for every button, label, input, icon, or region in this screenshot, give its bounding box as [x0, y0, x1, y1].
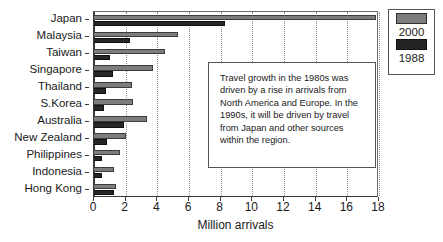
- bar-2000-australia: [94, 116, 147, 121]
- bar-1988-japan: [94, 21, 225, 26]
- bar-1988-australia: [94, 122, 124, 127]
- legend-swatch-1988-icon: [396, 39, 427, 50]
- bar-1988-malaysia: [94, 38, 130, 43]
- bar-1988-new-zealand: [94, 139, 107, 144]
- annotation-box: Travel growth in the 1980s was driven by…: [208, 62, 376, 168]
- bar-row: [94, 181, 377, 198]
- bar-1988-s-korea: [94, 105, 104, 110]
- x-axis-tick-label-12: 12: [276, 201, 289, 214]
- bar-1988-indonesia: [94, 173, 102, 178]
- y-axis-tick: [85, 87, 89, 88]
- x-axis-tick-label-18: 18: [371, 201, 384, 214]
- legend-label-2000: 2000: [389, 25, 434, 39]
- legend-label-1988: 1988: [389, 51, 434, 65]
- x-axis-tick-label-4: 4: [153, 201, 160, 214]
- y-axis-tick: [85, 172, 89, 173]
- x-axis-tick-labels: 024681012141618: [0, 201, 443, 217]
- x-axis-tick-label-8: 8: [216, 201, 223, 214]
- bar-1988-hong-kong: [94, 190, 114, 195]
- y-axis-label-s-korea: S.Korea: [40, 98, 82, 110]
- bar-2000-new-zealand: [94, 133, 126, 138]
- y-axis-label-philippines: Philippines: [26, 149, 82, 161]
- y-axis-tick: [85, 36, 89, 37]
- legend-item-1988: 1988: [389, 39, 434, 65]
- bar-chart: JapanMalaysiaTaiwanSingaporeThailandS.Ko…: [0, 0, 443, 242]
- bar-2000-malaysia: [94, 32, 178, 37]
- y-axis-label-thailand: Thailand: [38, 81, 82, 93]
- bar-2000-taiwan: [94, 49, 165, 54]
- bar-2000-indonesia: [94, 167, 114, 172]
- y-axis-label-taiwan: Taiwan: [46, 47, 82, 59]
- y-axis-label-malaysia: Malaysia: [37, 30, 82, 42]
- y-axis-label-new-zealand: New Zealand: [14, 132, 82, 144]
- y-axis-label-hong-kong: Hong Kong: [24, 183, 82, 195]
- y-axis-tick: [85, 19, 89, 20]
- x-axis-tick-label-16: 16: [340, 201, 353, 214]
- bar-row: [94, 29, 377, 46]
- x-axis-tick-label-10: 10: [245, 201, 258, 214]
- legend: 2000 1988: [388, 9, 435, 75]
- y-axis-tick: [85, 189, 89, 190]
- bar-2000-singapore: [94, 65, 153, 70]
- y-axis-tick: [85, 70, 89, 71]
- legend-swatch-2000-icon: [396, 13, 427, 24]
- x-axis-tick-label-2: 2: [121, 201, 128, 214]
- y-axis-tick: [85, 155, 89, 156]
- bar-1988-thailand: [94, 88, 106, 93]
- bar-1988-singapore: [94, 71, 113, 76]
- bar-2000-japan: [94, 15, 376, 20]
- x-axis-title: Million arrivals: [93, 218, 378, 232]
- legend-item-2000: 2000: [389, 13, 434, 39]
- bar-row: [94, 12, 377, 29]
- y-axis-tick: [85, 138, 89, 139]
- bar-1988-philippines: [94, 156, 102, 161]
- y-axis-tick: [85, 104, 89, 105]
- x-axis-tick-label-14: 14: [308, 201, 321, 214]
- y-axis-tick: [85, 121, 89, 122]
- y-axis-labels: JapanMalaysiaTaiwanSingaporeThailandS.Ko…: [0, 11, 89, 197]
- bar-1988-taiwan: [94, 55, 110, 60]
- bar-row: [94, 46, 377, 63]
- bar-2000-thailand: [94, 82, 132, 87]
- y-axis-label-australia: Australia: [37, 115, 82, 127]
- y-axis-label-japan: Japan: [51, 13, 82, 25]
- bar-2000-hong-kong: [94, 184, 116, 189]
- y-axis-tick: [85, 53, 89, 54]
- gridline-18: [379, 12, 380, 196]
- y-axis-label-singapore: Singapore: [30, 64, 82, 76]
- annotation-text: Travel growth in the 1980s was driven by…: [220, 72, 365, 146]
- x-axis-tick-label-0: 0: [90, 201, 97, 214]
- y-axis-label-indonesia: Indonesia: [32, 166, 82, 178]
- x-axis-tick-label-6: 6: [185, 201, 192, 214]
- bar-2000-philippines: [94, 150, 120, 155]
- bar-2000-s-korea: [94, 99, 133, 104]
